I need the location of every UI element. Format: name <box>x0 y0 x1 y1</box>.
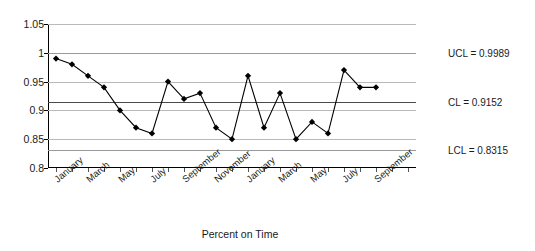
data-point-marker <box>277 90 283 96</box>
data-point-marker <box>53 55 59 61</box>
y-tick-mark <box>44 53 48 54</box>
x-tick-mark <box>408 168 409 172</box>
y-tick-mark <box>44 139 48 140</box>
data-point-marker <box>149 130 155 136</box>
y-tick-mark <box>44 24 48 25</box>
cl-annotation: CL = 0.9152 <box>448 96 502 107</box>
series-line <box>48 24 416 168</box>
y-tick-mark <box>44 110 48 111</box>
y-tick-mark <box>44 82 48 83</box>
y-tick-label: 0.95 <box>24 76 44 88</box>
x-tick-label: July <box>340 165 360 184</box>
data-point-marker <box>373 84 379 90</box>
data-point-marker <box>261 125 267 131</box>
data-point-marker <box>245 73 251 79</box>
x-tick-mark <box>168 168 169 172</box>
y-tick-label: 0.8 <box>29 162 44 174</box>
series-markers <box>53 55 379 142</box>
y-tick-label: 0.85 <box>24 133 44 145</box>
y-tick-label: 0.9 <box>29 104 44 116</box>
ucl-annotation: UCL = 0.9989 <box>448 48 510 59</box>
x-tick-label: July <box>148 165 168 184</box>
x-tick-mark <box>360 168 361 172</box>
y-tick-mark <box>44 168 48 169</box>
x-axis-title: Percent on Time <box>0 228 480 240</box>
data-point-marker <box>197 90 203 96</box>
y-tick-label: 1.05 <box>24 18 44 30</box>
plot-area <box>48 24 416 168</box>
control-chart-figure: 0.80.850.90.9511.05 JanuaryMarchMayJulyS… <box>0 0 535 251</box>
lcl-annotation: LCL = 0.8315 <box>448 144 508 155</box>
